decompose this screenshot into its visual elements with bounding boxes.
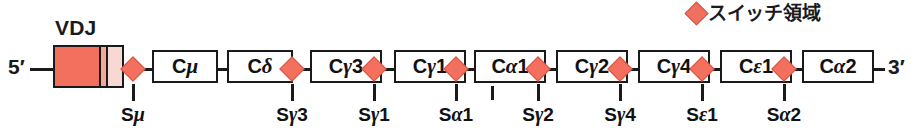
switch-prefix: S bbox=[522, 104, 535, 125]
gene-greek: γ bbox=[671, 54, 680, 79]
switch-suffix: 1 bbox=[707, 104, 718, 125]
leader-tick-sgamma4 bbox=[619, 84, 622, 101]
switch-label-salpha1: Sα1 bbox=[439, 103, 473, 126]
gene-greek: μ bbox=[186, 54, 198, 79]
switch-greek: ε bbox=[699, 103, 707, 125]
gene-prefix: C bbox=[172, 55, 186, 78]
switch-label-sepsilon1: Sε1 bbox=[686, 103, 717, 126]
switch-greek: γ bbox=[289, 103, 297, 125]
gene-prefix: C bbox=[575, 55, 589, 78]
leader-tick-salpha1 bbox=[455, 84, 458, 101]
leader-tick-sgamma2 bbox=[537, 84, 540, 101]
gene-greek: γ bbox=[343, 54, 352, 79]
igh-locus-diagram: スイッチ領域 VDJ 5′ 3′ CμCδCγ3Cγ1Cα1Cγ2Cγ4Cε1C… bbox=[0, 0, 915, 136]
legend-label: スイッチ領域 bbox=[708, 4, 820, 23]
switch-prefix: S bbox=[439, 104, 452, 125]
leader-tick-sgamma1 bbox=[373, 84, 376, 101]
switch-prefix: S bbox=[276, 104, 289, 125]
switch-greek: γ bbox=[617, 103, 625, 125]
switch-suffix: 4 bbox=[625, 104, 636, 125]
gene-box-cmu: Cμ bbox=[152, 50, 218, 83]
gene-prefix: C bbox=[329, 55, 343, 78]
switch-suffix: 2 bbox=[543, 104, 554, 125]
gene-suffix: 2 bbox=[845, 55, 856, 78]
vdj-caption: VDJ bbox=[55, 16, 96, 40]
marker-tick-calpha1-marker bbox=[491, 86, 494, 100]
switch-greek: γ bbox=[535, 103, 543, 125]
gene-suffix: 1 bbox=[762, 55, 773, 78]
switch-label-salpha2: Sα2 bbox=[767, 103, 801, 126]
gene-suffix: 2 bbox=[598, 55, 609, 78]
gene-greek: α bbox=[834, 54, 846, 79]
switch-prefix: S bbox=[686, 104, 699, 125]
switch-region-diamond-icon bbox=[684, 1, 708, 25]
switch-suffix: 1 bbox=[463, 104, 474, 125]
gene-greek: ε bbox=[753, 54, 762, 79]
gene-greek: γ bbox=[589, 54, 598, 79]
switch-greek: γ bbox=[371, 103, 379, 125]
switch-label-sgamma3: Sγ3 bbox=[276, 103, 308, 126]
gene-prefix: C bbox=[413, 55, 427, 78]
leader-tick-smu bbox=[132, 84, 135, 101]
vdj-j-segment bbox=[106, 47, 122, 86]
gene-prefix: C bbox=[491, 55, 505, 78]
gene-greek: γ bbox=[427, 54, 436, 79]
switch-label-sgamma4: Sγ4 bbox=[604, 103, 636, 126]
gene-suffix: 4 bbox=[680, 55, 691, 78]
switch-greek: α bbox=[780, 103, 791, 125]
switch-greek: μ bbox=[134, 103, 145, 125]
switch-prefix: S bbox=[358, 104, 371, 125]
gene-box-calpha2: Cα2 bbox=[802, 50, 874, 83]
three-prime-label: 3′ bbox=[888, 55, 905, 79]
switch-suffix: 2 bbox=[791, 104, 802, 125]
switch-suffix: 1 bbox=[379, 104, 390, 125]
leader-tick-sepsilon1 bbox=[701, 84, 704, 101]
gene-greek: α bbox=[506, 54, 518, 79]
leader-tick-salpha2 bbox=[783, 84, 786, 101]
switch-label-sgamma1: Sγ1 bbox=[358, 103, 390, 126]
vdj-v-segment bbox=[55, 47, 99, 86]
vdj-d-segment bbox=[99, 47, 106, 86]
leader-tick-sgamma3 bbox=[291, 84, 294, 101]
legend: スイッチ領域 bbox=[688, 4, 820, 23]
switch-prefix: S bbox=[121, 104, 134, 125]
switch-prefix: S bbox=[767, 104, 780, 125]
five-prime-label: 5′ bbox=[8, 55, 25, 79]
gene-prefix: C bbox=[247, 55, 261, 78]
switch-prefix: S bbox=[604, 104, 617, 125]
gene-greek: δ bbox=[262, 54, 273, 79]
gene-prefix: C bbox=[657, 55, 671, 78]
switch-label-sgamma2: Sγ2 bbox=[522, 103, 554, 126]
switch-diamond-smu bbox=[120, 56, 145, 81]
gene-suffix: 3 bbox=[352, 55, 363, 78]
switch-greek: α bbox=[452, 103, 463, 125]
switch-suffix: 3 bbox=[297, 104, 308, 125]
switch-label-smu: Sμ bbox=[121, 103, 145, 126]
vdj-segment-block bbox=[53, 45, 124, 88]
gene-prefix: C bbox=[819, 55, 833, 78]
gene-prefix: C bbox=[739, 55, 753, 78]
